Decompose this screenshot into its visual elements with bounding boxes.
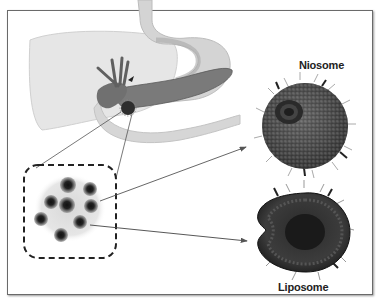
niosome-label: Niosome [299, 59, 344, 71]
liposome-label: Liposome [278, 281, 328, 293]
zoom-line-right [116, 114, 132, 178]
nanoparticle-cluster [34, 174, 106, 242]
niosome-vesicle [254, 72, 356, 178]
figure-canvas [0, 0, 381, 302]
liposome-vesicle [258, 180, 354, 280]
arrow-to-liposome [90, 225, 247, 241]
